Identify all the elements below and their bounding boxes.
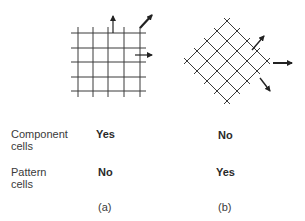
row-label-line2: cells: [11, 140, 68, 152]
caption-a: (a): [98, 201, 111, 213]
arrow-up-right-icon: [140, 15, 152, 28]
arrow-down-right-icon: [260, 78, 270, 91]
cell-a-pattern: No: [98, 166, 113, 178]
row-label-pattern: Pattern cells: [11, 166, 46, 190]
cell-b-component: No: [218, 129, 233, 141]
cell-a-component: Yes: [96, 128, 115, 140]
cell-b-pattern: Yes: [216, 166, 235, 178]
caption-b: (b): [218, 201, 231, 213]
lattice-arrows: [252, 36, 292, 91]
row-label-line2: cells: [11, 178, 46, 190]
arrow-up-right-icon: [252, 36, 264, 50]
grid-arrows: [113, 15, 152, 55]
diagonal-lattice: [184, 18, 270, 104]
row-label-line1: Pattern: [11, 166, 46, 178]
row-label-line1: Component: [11, 128, 68, 140]
square-grid: [71, 27, 146, 97]
row-label-component: Component cells: [11, 128, 68, 152]
